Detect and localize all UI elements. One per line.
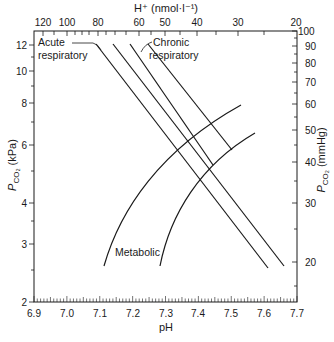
- chronic-label: Chronic: [153, 36, 189, 48]
- right-tick-label: 60: [305, 99, 317, 110]
- right-tick-labels: 100 90 80 70 60 50 40 30 20: [298, 26, 317, 268]
- bottom-tick-label: 7.5: [224, 308, 238, 319]
- bottom-tick-label: 7.3: [159, 308, 173, 319]
- acid-base-nomogram: H⁺ (nmol·l⁻¹) 120 100 80 60 50 40 30 20 …: [0, 0, 334, 342]
- right-tick-label: 100: [298, 26, 315, 37]
- bottom-tick-label: 7.0: [60, 308, 74, 319]
- bottom-tick-label: 7.6: [257, 308, 271, 319]
- left-tick-label: 2: [21, 297, 27, 308]
- acute-label: Acute: [38, 36, 65, 48]
- bottom-axis-title: pH: [159, 321, 173, 333]
- top-tick-label: 80: [92, 17, 104, 28]
- top-tick-label: 120: [35, 17, 52, 28]
- plot-frame: [34, 31, 297, 302]
- chronic-label-2: respiratory: [149, 49, 199, 61]
- right-ticks: [292, 31, 297, 286]
- top-tick-label: 30: [232, 17, 244, 28]
- top-tick-label: 40: [191, 17, 203, 28]
- bottom-tick-label: 7.4: [191, 308, 205, 319]
- metabolic-upper-curve: [104, 105, 241, 266]
- top-tick-label: 60: [133, 17, 145, 28]
- bottom-tick-label: 7.1: [93, 308, 107, 319]
- top-tick-label: 100: [59, 17, 76, 28]
- right-axis-title: PCO₂ (mmHg): [315, 127, 330, 192]
- left-tick-label: 8: [21, 98, 27, 109]
- bottom-tick-label: 6.9: [27, 308, 41, 319]
- top-tick-label: 50: [159, 17, 171, 28]
- left-ticks: [29, 45, 34, 302]
- left-axis-title: PCO₂ (kPa): [6, 139, 21, 191]
- acute-upper-line: [96, 44, 268, 268]
- left-tick-label: 10: [16, 66, 28, 77]
- right-tick-label: 30: [305, 198, 317, 209]
- left-tick-label: 3: [21, 239, 27, 250]
- acute-label-2: respiratory: [38, 49, 88, 61]
- left-tick-label: 12: [16, 40, 28, 51]
- right-tick-label: 70: [305, 77, 317, 88]
- bottom-tick-label: 7.2: [126, 308, 140, 319]
- top-tick-labels: 120 100 80 60 50 40 30 20: [35, 17, 302, 28]
- acute-lower-line: [113, 44, 284, 266]
- left-tick-label: 4: [21, 198, 27, 209]
- right-tick-label: 20: [305, 257, 317, 268]
- metabolic-band: [104, 105, 255, 266]
- right-tick-label: 90: [305, 41, 317, 52]
- bottom-ticks: [34, 296, 297, 302]
- metabolic-label: Metabolic: [115, 246, 160, 258]
- bottom-tick-label: 7.7: [290, 308, 304, 319]
- top-axis-title: H⁺ (nmol·l⁻¹): [134, 2, 198, 14]
- left-tick-label: 6: [21, 140, 27, 151]
- acute-respiratory-band: [96, 44, 284, 268]
- right-tick-label: 80: [305, 58, 317, 69]
- bottom-tick-labels: 6.9 7.0 7.1 7.2 7.3 7.4 7.5 7.6 7.7: [27, 308, 304, 319]
